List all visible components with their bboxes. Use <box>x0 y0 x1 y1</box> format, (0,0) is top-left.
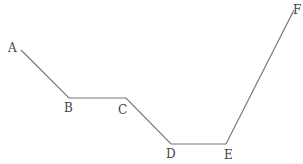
vertex-label-c: C <box>118 103 127 117</box>
vertex-label-a: A <box>7 41 17 55</box>
polyline-diagram: A B C D E F <box>0 0 303 164</box>
vertex-label-e: E <box>224 148 233 162</box>
vertex-label-f: F <box>293 3 301 17</box>
vertex-label-b: B <box>64 101 73 115</box>
vertex-label-d: D <box>166 147 176 161</box>
path-line-a-to-f <box>21 10 294 144</box>
